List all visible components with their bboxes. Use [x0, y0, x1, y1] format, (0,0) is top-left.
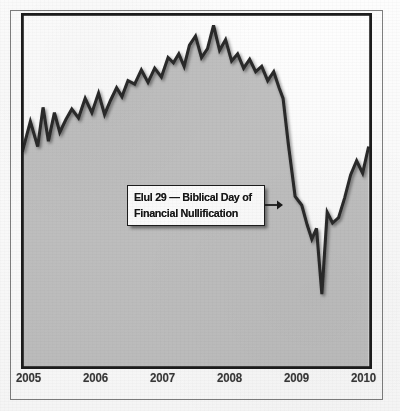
x-axis-tick-2006: 2006: [83, 371, 108, 385]
x-axis: 200520062007200820092010: [10, 371, 383, 393]
annotation-line-1: Elul 29 — Biblical Day of: [134, 189, 250, 205]
x-axis-tick-2008: 2008: [217, 371, 242, 385]
x-axis-tick-2009: 2009: [284, 371, 309, 385]
x-axis-tick-2010: 2010: [351, 371, 376, 385]
x-axis-tick-2007: 2007: [150, 371, 175, 385]
top-caption: [0, 0, 400, 10]
annotation-arrow-icon: [265, 198, 283, 212]
annotation-callout: Elul 29 — Biblical Day of Financial Null…: [127, 185, 265, 226]
annotation-line-2: Financial Nullification: [134, 205, 250, 221]
x-axis-tick-2005: 2005: [16, 371, 41, 385]
